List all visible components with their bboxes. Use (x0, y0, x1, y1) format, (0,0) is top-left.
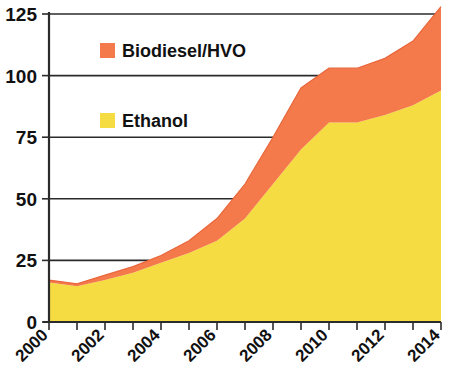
y-tick-label-50: 50 (16, 189, 37, 210)
area-chart: 0255075100125 20002002200420062008201020… (0, 0, 450, 376)
y-tick-label-125: 125 (5, 4, 37, 25)
legend-label-ethanol: Ethanol (122, 111, 188, 131)
legend-swatch-biodiesel-hvo (100, 43, 115, 58)
legend-swatch-ethanol (100, 113, 115, 128)
chart-container: 0255075100125 20002002200420062008201020… (0, 0, 450, 376)
legend-label-biodiesel-hvo: Biodiesel/HVO (122, 41, 246, 61)
y-tick-label-75: 75 (16, 127, 38, 148)
y-tick-label-25: 25 (16, 250, 38, 271)
y-tick-label-100: 100 (5, 66, 37, 87)
